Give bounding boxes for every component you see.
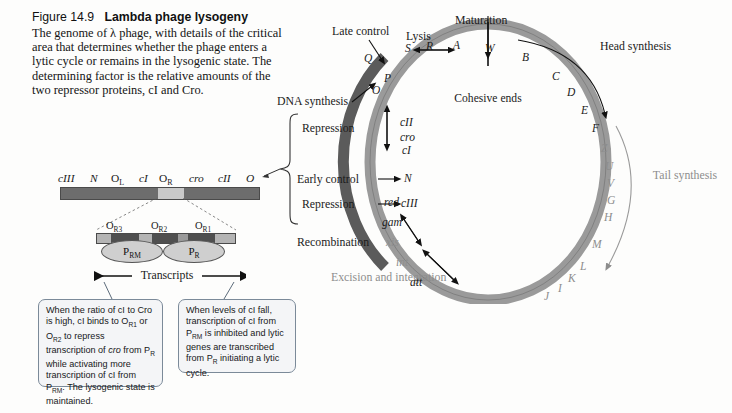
- figure-title: Lambda phage lysogeny: [104, 10, 248, 24]
- maturation-label: Maturation: [455, 13, 507, 28]
- gene-label-N: N: [90, 172, 98, 184]
- tail-synthesis-label: Tail synthesis: [652, 169, 718, 182]
- ring-gene-Q: Q: [364, 52, 372, 64]
- gene-label-cI: cI: [139, 172, 148, 184]
- ring-gene-K: K: [568, 272, 576, 284]
- ring-gene-gam: gam: [382, 216, 402, 228]
- gene-label-cII: cII: [218, 172, 231, 184]
- excision-integration-label: Excision and integration: [331, 271, 411, 284]
- ring-gene-S: S: [405, 42, 411, 54]
- ring-gene-L: L: [580, 260, 586, 272]
- ring-gene-M: M: [592, 238, 602, 250]
- recombination-label: Recombination: [297, 235, 369, 250]
- dna-synthesis-label: DNA synthesis: [277, 94, 348, 109]
- operator-block-0: [97, 234, 111, 243]
- operator-block-6: [215, 234, 235, 243]
- ring-gene-xis: xis: [386, 236, 399, 248]
- ring-gene-O: O: [372, 84, 380, 96]
- ring-gene-red: red: [384, 196, 399, 208]
- ring-gene-C: C: [552, 70, 560, 82]
- operator-label-or1: OR1: [195, 220, 211, 234]
- late-control-label: Late control: [332, 25, 380, 38]
- ring-gene-B: B: [522, 51, 529, 63]
- ring-gene-V: V: [607, 177, 614, 189]
- ring-gene-int: int: [396, 256, 408, 268]
- caption-body: The genome of λ phage, with details of t…: [32, 26, 287, 97]
- ring-gene-E: E: [581, 104, 588, 116]
- ring-gene-att: att: [410, 276, 422, 288]
- cohesive-ends-label: Cohesive ends: [452, 92, 524, 105]
- ring-gene-H: H: [604, 211, 612, 223]
- ring-gene-cI: cI: [402, 144, 411, 156]
- ring-gene-G: G: [607, 194, 615, 206]
- lytic-callout: When levels of cI fall, transcription of…: [178, 299, 296, 373]
- gene-label-cro: cro: [189, 172, 204, 184]
- ring-gene-F: F: [592, 122, 599, 134]
- transcripts-label: Transcripts: [88, 268, 246, 283]
- ring-gene-W: W: [485, 42, 495, 54]
- ring-gene-J: J: [544, 290, 549, 302]
- gene-label-OR: OR: [159, 172, 173, 187]
- operator-label-or3: OR3: [106, 220, 122, 234]
- promoter-prm: PRM: [101, 240, 163, 263]
- ring-gene-N: N: [404, 172, 412, 184]
- ring-gene-cro: cro: [400, 131, 415, 143]
- linear-gene-map: cIII N OL cI OR cro cII O: [60, 172, 260, 200]
- operator-labels: OR3 OR2 OR1: [96, 220, 236, 233]
- ring-gene-I: I: [558, 282, 562, 294]
- promoter-pr: PR: [163, 240, 225, 263]
- recombination-arrow-down: [403, 218, 419, 242]
- operator-label-or2: OR2: [151, 220, 167, 234]
- caption-heading: Figure 14.9 Lambda phage lysogeny: [32, 10, 287, 25]
- ring-gene-cIII: cIII: [401, 197, 418, 209]
- gene-label-OL: OL: [111, 172, 124, 187]
- figure-page: Figure 14.9 Lambda phage lysogeny The ge…: [0, 0, 732, 413]
- circular-genome-map: Cohesive ends Maturation Lysis Late cont…: [300, 4, 730, 304]
- ring-gene-A: A: [453, 39, 460, 51]
- ring-gene-U: U: [605, 160, 613, 172]
- ring-gene-R: R: [426, 40, 433, 52]
- gene-map-labels: cIII N OL cI OR cro cII O: [60, 172, 260, 187]
- region-brace: [262, 112, 310, 227]
- figure-number: Figure 14.9: [32, 10, 94, 24]
- ring-gene-D: D: [567, 86, 575, 98]
- ring-gene-Z: Z: [601, 142, 607, 154]
- figure-caption: Figure 14.9 Lambda phage lysogeny The ge…: [32, 10, 287, 97]
- head-synthesis-label: Head synthesis: [600, 40, 660, 53]
- gene-label-O: O: [246, 172, 254, 184]
- ring-gene-P: P: [384, 72, 391, 84]
- gene-label-cIII: cIII: [58, 172, 74, 184]
- ring-gene-cII: cII: [400, 116, 413, 128]
- lysogenic-callout: When the ratio of cI to Cro is high, cI …: [38, 299, 163, 387]
